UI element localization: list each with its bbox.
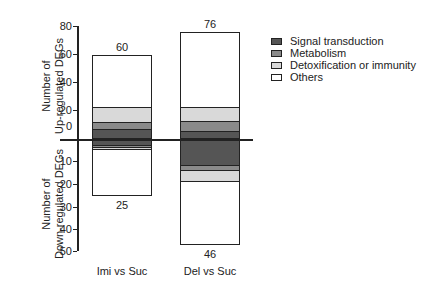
- seg-others: [181, 181, 239, 182]
- baseline: [60, 139, 253, 141]
- y-axis-line-down: [77, 139, 79, 251]
- seg-others: [93, 149, 151, 150]
- tick-mark: [73, 161, 77, 162]
- tick-up-60: 60: [52, 48, 72, 60]
- category-imi: Imi vs Suc: [77, 265, 167, 277]
- tick-down-50: 50: [52, 245, 72, 257]
- tick-mark: [73, 229, 77, 230]
- seg-detox: [181, 107, 239, 122]
- legend: Signal transduction Metabolism Detoxific…: [271, 35, 416, 83]
- tick-up-20: 20: [52, 104, 72, 116]
- legend-label: Metabolism: [290, 47, 346, 59]
- tick-mark: [73, 54, 77, 55]
- tick-up-80: 80: [52, 20, 72, 32]
- legend-label: Detoxification or immunity: [290, 59, 416, 71]
- tick-up-40: 40: [52, 76, 72, 88]
- tick-mark: [73, 251, 77, 252]
- value-imi-up: 60: [92, 41, 152, 53]
- swatch-icon: [271, 50, 282, 57]
- legend-item-detox: Detoxification or immunity: [271, 59, 416, 71]
- bar-del-down: [180, 138, 240, 245]
- tick-mark: [73, 26, 77, 27]
- y-axis-line-up: [77, 26, 79, 139]
- seg-signal: [181, 139, 239, 166]
- legend-item-signal: Signal transduction: [271, 35, 416, 47]
- tick-mark: [73, 184, 77, 185]
- legend-label: Signal transduction: [290, 35, 384, 47]
- swatch-icon: [271, 74, 282, 81]
- tick-down-20: 20: [52, 178, 72, 190]
- tick-down-30: 30: [52, 201, 72, 213]
- tick-down-40: 40: [52, 223, 72, 235]
- seg-detox: [93, 107, 151, 123]
- value-del-up: 76: [180, 18, 240, 30]
- value-imi-down: 25: [92, 199, 152, 211]
- bar-del-up: [180, 32, 240, 140]
- swatch-icon: [271, 38, 282, 45]
- legend-item-metabolism: Metabolism: [271, 47, 416, 59]
- category-del: Del vs Suc: [165, 265, 255, 277]
- value-del-down: 46: [180, 248, 240, 260]
- bar-imi-up: [92, 55, 152, 140]
- tick-mark: [73, 82, 77, 83]
- tick-down-10: 10: [52, 155, 72, 167]
- tick-mark: [73, 110, 77, 111]
- tick-mark: [73, 207, 77, 208]
- swatch-icon: [271, 62, 282, 69]
- tick-up-0: 0: [52, 120, 72, 132]
- legend-item-others: Others: [271, 71, 416, 83]
- bar-imi-down: [92, 138, 152, 196]
- legend-label: Others: [290, 71, 323, 83]
